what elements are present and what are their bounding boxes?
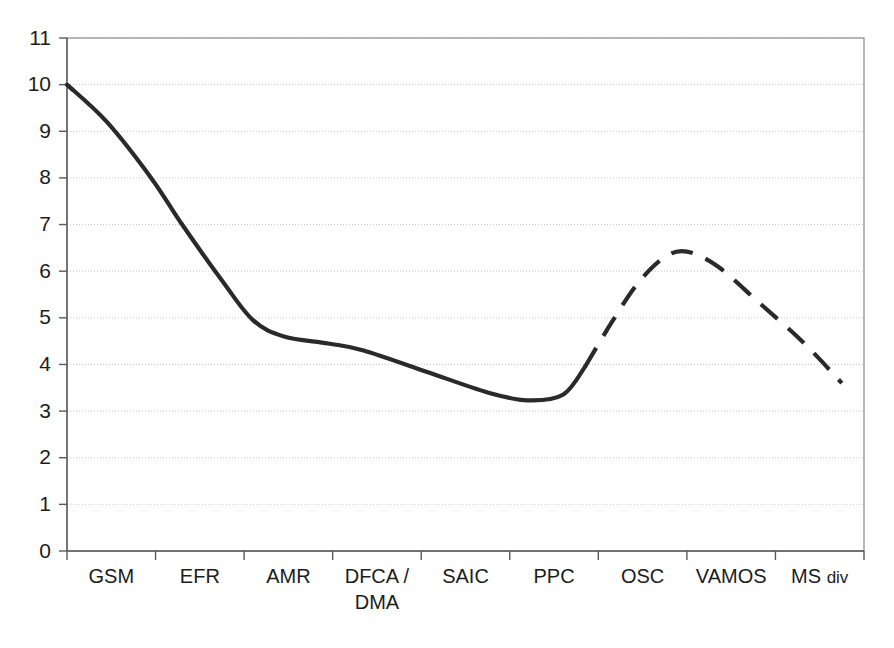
x-tick-label: OSC xyxy=(621,565,664,587)
x-tick-label: VAMOS xyxy=(696,565,767,587)
line-chart: 01234567891011 GSMEFRAMRDFCA /DMASAICPPC… xyxy=(0,0,894,648)
y-tick-label: 8 xyxy=(39,165,51,188)
y-tick-label: 3 xyxy=(39,399,51,422)
x-tick-label: DFCA / xyxy=(345,565,410,587)
y-tick-label: 6 xyxy=(39,259,51,282)
y-tick-label: 2 xyxy=(39,445,51,468)
y-tick-label: 5 xyxy=(39,305,51,328)
y-tick-label: 10 xyxy=(28,72,51,95)
chart-container: 01234567891011 GSMEFRAMRDFCA /DMASAICPPC… xyxy=(0,0,894,648)
y-tick-label: 1 xyxy=(39,492,51,515)
y-tick-label: 0 xyxy=(39,539,51,562)
x-tick-label: AMR xyxy=(266,565,310,587)
y-tick-label: 4 xyxy=(39,352,51,375)
x-tick-label: SAIC xyxy=(442,565,489,587)
x-tick-label: GSM xyxy=(88,565,134,587)
x-tick-label-line2: DMA xyxy=(355,591,400,613)
x-tick-label: EFR xyxy=(180,565,220,587)
y-tick-label: 11 xyxy=(29,26,51,49)
y-tick-label: 9 xyxy=(39,119,51,142)
y-tick-label: 7 xyxy=(39,212,51,235)
x-tick-label: MS div xyxy=(791,565,849,587)
x-tick-label: PPC xyxy=(533,565,574,587)
